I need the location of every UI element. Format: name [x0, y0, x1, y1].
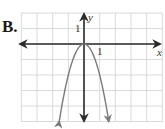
coordinate-graph: x y 1 1: [0, 0, 165, 129]
y-tick-label-1: 1: [75, 22, 81, 34]
grid: [21, 13, 162, 122]
x-tick-label-1: 1: [97, 45, 103, 57]
x-axis-label: x: [156, 46, 162, 58]
y-axis-label: y: [87, 11, 93, 23]
